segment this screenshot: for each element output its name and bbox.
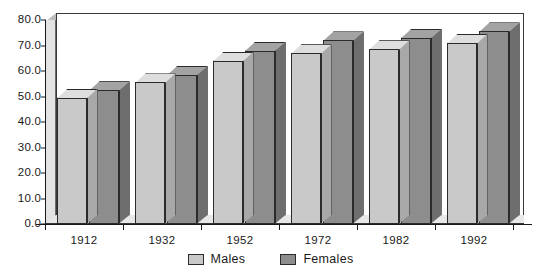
bar-front-face: [57, 98, 87, 224]
bar-front-face: [291, 53, 321, 224]
bar-chart: 80.070.060.050.040.030.020.010.00.0 1912…: [0, 0, 541, 280]
bar-side-face: [119, 81, 130, 224]
bar-side-face: [197, 66, 208, 224]
bar-side-face: [399, 40, 410, 224]
legend-item-males: Males: [188, 253, 246, 266]
x-tick-label-1982: 1982: [383, 234, 410, 246]
legend-label-females: Females: [303, 253, 353, 266]
bar-front-face: [447, 43, 477, 224]
females-swatch: [280, 254, 296, 265]
bar-side-face: [243, 52, 254, 224]
bar-males-1992: [447, 34, 488, 224]
x-axis-line: [36, 224, 532, 225]
x-tick-mark: [513, 225, 514, 230]
y-tick-label: 20.0: [0, 167, 41, 179]
y-tick-label: 50.0: [0, 91, 41, 103]
x-tick-mark: [123, 225, 124, 230]
y-tick-label: 30.0: [0, 142, 41, 154]
bar-males-1932: [135, 73, 176, 224]
x-tick-mark: [45, 225, 46, 230]
bar-males-1912: [57, 89, 98, 224]
legend-label-males: Males: [211, 253, 246, 266]
x-tick-mark: [435, 225, 436, 230]
chart-legend: Males Females: [0, 253, 541, 266]
males-swatch: [188, 254, 204, 265]
bar-front-face: [135, 82, 165, 224]
x-tick-mark: [201, 225, 202, 230]
x-tick-mark: [279, 225, 280, 230]
y-tick-label: 10.0: [0, 193, 41, 205]
bar-males-1982: [369, 40, 410, 224]
x-tick-label-1992: 1992: [461, 234, 488, 246]
x-tick-label-1952: 1952: [227, 234, 254, 246]
bar-side-face: [477, 34, 488, 224]
y-tick-label: 60.0: [0, 65, 41, 77]
x-tick-label-1972: 1972: [305, 234, 332, 246]
bar-side-face: [321, 44, 332, 224]
legend-item-females: Females: [280, 253, 353, 266]
y-tick-label: 0.0: [0, 218, 41, 230]
bar-side-face: [275, 42, 286, 224]
x-tick-label-1912: 1912: [71, 234, 98, 246]
y-tick-label: 70.0: [0, 40, 41, 52]
y-tick-label: 40.0: [0, 116, 41, 128]
x-tick-label-1932: 1932: [149, 234, 176, 246]
bar-side-face: [353, 31, 364, 224]
y-axis-line: [45, 20, 46, 225]
bar-front-face: [369, 49, 399, 224]
x-tick-mark: [357, 225, 358, 230]
plot-left-wall: [45, 20, 56, 224]
bar-males-1972: [291, 44, 332, 224]
bar-side-face: [165, 73, 176, 224]
bar-front-face: [213, 61, 243, 224]
bar-side-face: [87, 89, 98, 224]
bar-side-face: [431, 29, 442, 224]
bar-side-face: [509, 22, 520, 224]
bar-males-1952: [213, 52, 254, 224]
y-tick-label: 80.0: [0, 14, 41, 26]
